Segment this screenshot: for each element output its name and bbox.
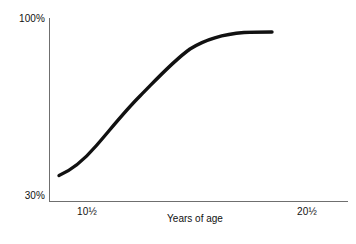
chart-canvas: 100% 30% 10½ 20½ Years of age [0, 0, 356, 244]
growth-curve-line [59, 32, 272, 176]
curve-plot-area [0, 0, 356, 244]
